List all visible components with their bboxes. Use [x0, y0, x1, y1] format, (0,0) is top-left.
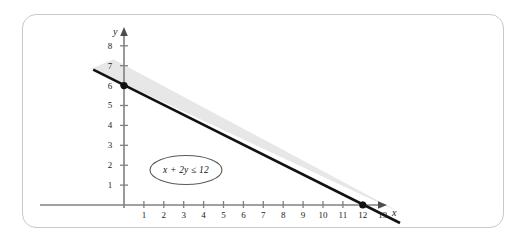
y-intercept-point: [120, 82, 127, 89]
x-tick-label: 8: [277, 210, 289, 220]
x-tick-label: 6: [237, 210, 249, 220]
y-tick-label: 3: [104, 140, 116, 150]
y-tick-label: 4: [104, 120, 116, 130]
x-tick-label: 2: [158, 210, 170, 220]
x-tick-label: 11: [337, 210, 349, 220]
y-tick-label: 2: [104, 160, 116, 170]
x-axis-arrow: [378, 201, 387, 208]
y-tick-label: 1: [104, 180, 116, 190]
y-tick-label: 6: [104, 81, 116, 91]
x-tick-label: 1: [138, 210, 150, 220]
y-tick-label: 5: [104, 100, 116, 110]
coordinate-plane: [0, 0, 526, 245]
figure-canvas: y x 1 2 3 4 5 6 7 8 9 10 11 12 13 1 2 3 …: [0, 0, 526, 245]
y-tick-label: 8: [104, 41, 116, 51]
y-tick-label: 7: [104, 61, 116, 71]
x-intercept-point: [359, 201, 366, 208]
x-tick-label: 5: [218, 210, 230, 220]
x-tick-label: 4: [198, 210, 210, 220]
x-tick-label: 12: [357, 210, 369, 220]
y-axis-label: y: [113, 26, 117, 37]
x-tick-label: 13: [377, 210, 389, 220]
inequality-label: x + 2y ≤ 12: [150, 156, 222, 184]
boundary-line: [93, 70, 400, 223]
x-tick-label: 7: [257, 210, 269, 220]
solution-region-upper: [92, 59, 400, 212]
x-tick-label: 9: [297, 210, 309, 220]
y-axis-arrow: [120, 27, 128, 36]
x-tick-label: 10: [317, 210, 329, 220]
x-tick-label: 3: [178, 210, 190, 220]
x-axis-label: x: [392, 207, 396, 218]
